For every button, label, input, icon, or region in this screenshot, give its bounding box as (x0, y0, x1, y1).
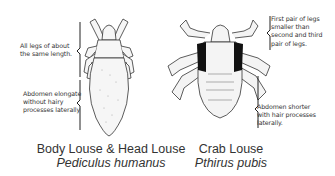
left-annotation-legs: All legs of about the same length. (20, 42, 72, 58)
right-caption: Crab Louse Pthirus pubis (188, 142, 274, 170)
crab-louse-drawing (168, 20, 270, 118)
annotation-line: second and third (271, 31, 322, 39)
annotation-line: Abdomen elongate (23, 90, 81, 98)
common-name: Body Louse & Head Louse (36, 142, 186, 156)
common-name: Crab Louse (188, 142, 274, 156)
annotation-line: smaller than (271, 23, 322, 31)
left-caption: Body Louse & Head Louse Pediculus humanu… (36, 142, 186, 170)
annotation-line: laterally. (257, 119, 316, 127)
right-annotation-abdomen: Abdomen shorter with hair processes late… (257, 103, 316, 128)
annotation-line: Abdomen shorter (257, 103, 316, 111)
annotation-line: without hairy (23, 98, 81, 106)
annotation-line: pair of legs. (271, 40, 322, 48)
annotation-line: with hair processes (257, 111, 316, 119)
body-louse-drawing (84, 19, 134, 136)
annotation-line: processes laterally (23, 106, 81, 114)
annotation-line: All legs of about (20, 42, 72, 50)
scientific-name: Pthirus pubis (188, 156, 274, 170)
right-annotation-legs: First pair of legs smaller than second a… (271, 15, 322, 48)
scientific-name: Pediculus humanus (36, 156, 186, 170)
annotation-line: the same length. (20, 50, 72, 58)
left-annotation-abdomen: Abdomen elongate without hairy processes… (23, 90, 81, 115)
annotation-line: First pair of legs (271, 15, 322, 23)
